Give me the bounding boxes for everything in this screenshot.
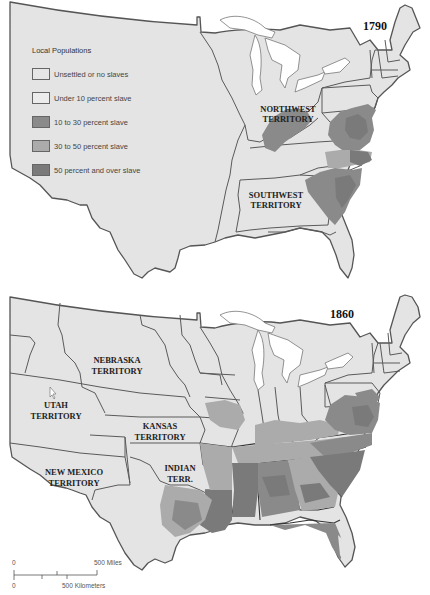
kansas-territory-label-2: TERRITORY [134, 432, 185, 442]
legend-item-30-50: 30 to 50 percent slave [32, 134, 140, 158]
indian-territory-label-1: INDIAN [164, 463, 196, 473]
legend-title: Local Populations [32, 46, 140, 55]
legend-swatch-10-30 [32, 116, 50, 128]
scale-bar: 0 500 Miles 0 500 Kilometers [12, 558, 132, 594]
legend-label: Unsettled or no slaves [54, 70, 128, 79]
northwest-territory-label-1: NORTHWEST [260, 104, 316, 114]
legend-label: 50 percent and over slave [54, 166, 140, 175]
scale-zero-km: 0 [12, 582, 16, 589]
legend-item-50-plus: 50 percent and over slave [32, 158, 140, 182]
legend-label: 10 to 30 percent slave [54, 118, 128, 127]
map-1860: 1860 NEBRASKA TERRITORY UTAH TERRITORY K… [0, 285, 430, 595]
utah-territory-label-1: UTAH [44, 400, 68, 410]
utah-territory-label-2: TERRITORY [30, 411, 81, 421]
new-mexico-territory-label-2: TERRITORY [48, 478, 99, 488]
legend: Local Populations Unsettled or no slaves… [32, 46, 140, 182]
legend-swatch-50-plus [32, 164, 50, 176]
kansas-territory-label-1: KANSAS [143, 421, 178, 431]
legend-swatch-unsettled [32, 68, 50, 80]
map-1860-svg: 1860 NEBRASKA TERRITORY UTAH TERRITORY K… [0, 285, 430, 595]
scale-miles-label: 500 Miles [94, 559, 123, 566]
legend-label: 30 to 50 percent slave [54, 142, 128, 151]
legend-item-unsettled: Unsettled or no slaves [32, 62, 140, 86]
map-1790: 1790 NORTHWEST TERRITORY SOUTHWEST TERRI… [0, 0, 430, 290]
legend-label: Under 10 percent slave [54, 94, 132, 103]
nebraska-territory-label-1: NEBRASKA [93, 355, 141, 365]
indian-territory-label-2: TERR. [167, 474, 193, 484]
northwest-territory-label-2: TERRITORY [262, 114, 313, 124]
legend-swatch-30-50 [32, 140, 50, 152]
new-mexico-territory-label-1: NEW MEXICO [45, 467, 104, 477]
southwest-territory-label-1: SOUTHWEST [249, 190, 304, 200]
southwest-territory-label-2: TERRITORY [250, 200, 301, 210]
legend-item-under-10: Under 10 percent slave [32, 86, 140, 110]
scale-km-label: 500 Kilometers [62, 582, 106, 589]
region-mississippi-50plus [232, 463, 258, 517]
legend-swatch-under-10 [32, 92, 50, 104]
scale-zero-miles: 0 [12, 559, 16, 566]
region-florida-10-30 [270, 523, 345, 560]
nebraska-territory-label-2: TERRITORY [91, 366, 142, 376]
year-1790-label: 1790 [363, 19, 387, 33]
year-1860-label: 1860 [330, 307, 354, 321]
legend-item-10-30: 10 to 30 percent slave [32, 110, 140, 134]
